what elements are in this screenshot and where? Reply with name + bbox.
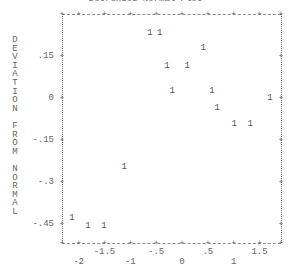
data-point: 1	[85, 221, 90, 230]
data-point: 1	[147, 29, 152, 38]
x-tick-mark: +	[180, 10, 185, 18]
y-tick-mark: +	[60, 136, 65, 144]
data-point: 1	[69, 214, 74, 223]
x-tick-mark: +	[76, 10, 81, 18]
y-axis-label-letter: M	[11, 148, 19, 157]
y-tick-mark: +	[60, 94, 65, 102]
x-tick-label: -.5	[148, 248, 164, 257]
x-tick-mark: +	[205, 239, 210, 247]
data-point: 1	[184, 62, 189, 71]
y-tick-mark: +	[279, 136, 284, 144]
data-point: 1	[248, 120, 253, 129]
y-tick-mark: +	[279, 220, 284, 228]
y-tick-mark: +	[60, 220, 65, 228]
y-tick-label: -.45	[14, 220, 54, 229]
y-tick-label: -.15	[14, 136, 54, 145]
y-tick-mark: +	[60, 178, 65, 186]
x-tick-label: -2	[73, 258, 84, 267]
y-axis-label-letter: N	[11, 105, 19, 114]
y-tick-mark: +	[279, 178, 284, 186]
top-border	[62, 14, 281, 15]
x-tick-mark: +	[76, 239, 81, 247]
x-tick-mark: +	[205, 10, 210, 18]
left-border	[62, 14, 63, 243]
data-point: 1	[209, 87, 214, 96]
y-tick-mark: +	[60, 52, 65, 60]
frame-corner: +	[279, 239, 284, 247]
x-tick-label: 1	[231, 258, 236, 267]
data-point: 1	[267, 94, 272, 103]
x-tick-mark: +	[128, 10, 133, 18]
x-tick-mark: +	[231, 10, 236, 18]
x-tick-label: -1	[125, 258, 136, 267]
x-tick-mark: +	[154, 10, 159, 18]
x-tick-label: 1.5	[251, 248, 267, 257]
data-point: 1	[169, 87, 174, 96]
frame-corner: +	[60, 239, 65, 247]
chart-title: Detrended Normal Plot	[0, 0, 291, 4]
data-point: 1	[214, 104, 219, 113]
y-tick-mark: +	[279, 52, 284, 60]
right-border	[281, 14, 282, 243]
x-tick-mark: +	[180, 239, 185, 247]
frame-corner: +	[60, 10, 65, 18]
data-point: 1	[157, 29, 162, 38]
y-tick-label: -.3	[14, 178, 54, 187]
x-tick-label: .5	[202, 248, 213, 257]
x-tick-label: -1.5	[94, 248, 116, 257]
data-point: 1	[121, 162, 126, 171]
y-axis-label-letter: L	[11, 208, 19, 217]
y-tick-label: .15	[14, 52, 54, 61]
y-tick-label: 0	[14, 94, 54, 103]
x-tick-mark: +	[102, 239, 107, 247]
data-point: 1	[164, 62, 169, 71]
x-tick-label: 0	[179, 258, 184, 267]
data-point: 1	[200, 43, 205, 52]
frame-corner: +	[279, 10, 284, 18]
x-tick-mark: +	[257, 239, 262, 247]
x-tick-mark: +	[257, 10, 262, 18]
x-tick-mark: +	[231, 239, 236, 247]
data-point: 1	[101, 221, 106, 230]
x-tick-mark: +	[128, 239, 133, 247]
y-tick-mark: +	[279, 94, 284, 102]
x-tick-mark: +	[102, 10, 107, 18]
data-point: 1	[232, 120, 237, 129]
bottom-border	[62, 243, 281, 244]
x-tick-mark: +	[154, 239, 159, 247]
